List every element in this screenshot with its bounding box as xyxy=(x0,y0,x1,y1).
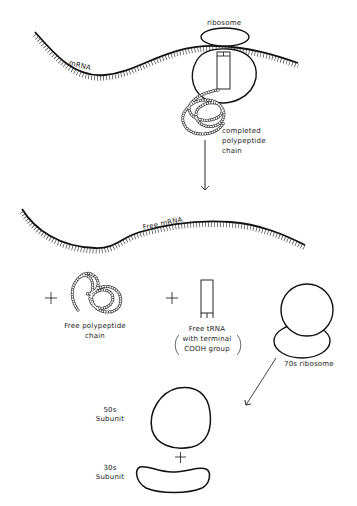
free-trna xyxy=(201,280,213,318)
diagram-canvas xyxy=(0,0,357,506)
bottom-panel xyxy=(137,387,211,492)
ribosome-label: ribosome xyxy=(207,19,241,28)
mrna-strand xyxy=(35,32,298,78)
chain-label-line1: completed xyxy=(222,127,261,136)
trna-label-line2: with terminal xyxy=(176,335,238,344)
chain-label-line2: polypeptide xyxy=(222,137,266,146)
trna-label-line3: COOH group xyxy=(176,345,238,354)
subunit-50s-label-line2: Subunit xyxy=(92,415,128,424)
polypeptide-label-line2: chain xyxy=(60,332,130,341)
free-polypeptide-chain xyxy=(72,273,121,312)
free-mrna-strand xyxy=(22,209,305,251)
top-panel xyxy=(35,28,298,190)
ribosome-70s xyxy=(274,284,333,358)
middle-panel xyxy=(22,209,333,405)
chain-label-line3: chain xyxy=(222,147,242,156)
diagonal-arrow xyxy=(246,358,276,405)
ribosome-70s-label: 70s ribosome xyxy=(284,360,334,369)
subunit-50s-shape xyxy=(151,387,210,448)
subunit-30s-label-line1: 30s xyxy=(92,464,128,473)
polypeptide-label-line1: Free polypeptide xyxy=(60,322,130,331)
ribosome-small-subunit xyxy=(201,28,249,46)
plus-sign-3 xyxy=(175,452,186,463)
subunit-50s-label-line1: 50s xyxy=(92,406,128,415)
plus-sign-1 xyxy=(45,292,57,304)
trna-label-line1: Free tRNA xyxy=(176,325,238,334)
subunit-30s-label-line2: Subunit xyxy=(92,473,128,482)
plus-sign-2 xyxy=(166,292,178,304)
subunit-30s-shape xyxy=(137,467,210,493)
